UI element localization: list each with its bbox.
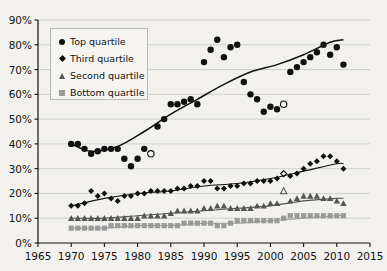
data-point: [340, 200, 346, 206]
data-point: [267, 104, 273, 110]
data-point: [194, 101, 200, 107]
data-point: [274, 106, 280, 112]
data-point: [115, 198, 121, 204]
data-point: [108, 146, 114, 152]
data-point: [174, 208, 180, 214]
legend-label: Third quartile: [70, 53, 134, 64]
y-axis-label: 20%: [0, 187, 32, 199]
data-point: [300, 59, 306, 65]
data-point: [181, 221, 186, 226]
data-point: [307, 161, 313, 167]
legend-item-top-quartile: Top quartile: [56, 33, 147, 50]
data-point: [287, 69, 293, 75]
data-point: [181, 208, 187, 214]
legend-item-bottom-quartile: Bottom quartile: [56, 84, 147, 101]
legend-label: Top quartile: [70, 36, 126, 47]
y-axis-label: 30%: [0, 163, 32, 175]
y-axis-label: 0%: [0, 237, 32, 249]
data-point: [128, 223, 133, 228]
data-point: [294, 195, 300, 201]
data-point: [81, 146, 87, 152]
y-axis-label: 10%: [0, 212, 32, 224]
data-point: [89, 226, 94, 231]
data-point: [268, 218, 273, 223]
y-axis-label: 60%: [0, 88, 32, 100]
legend-label: Bottom quartile: [70, 87, 145, 98]
y-axis-label: 50%: [0, 113, 32, 125]
data-point: [188, 208, 194, 214]
data-point: [101, 190, 107, 196]
data-point: [281, 216, 286, 221]
data-point: [320, 42, 326, 48]
data-point: [301, 213, 306, 218]
data-point: [254, 96, 260, 102]
x-axis-label: 2015: [353, 250, 387, 262]
legend-label: Second quartile: [70, 70, 145, 81]
data-point: [261, 203, 267, 209]
data-point: [227, 44, 233, 50]
data-point: [334, 44, 340, 50]
data-point: [175, 223, 180, 228]
data-point: [68, 203, 74, 209]
data-point: [88, 151, 94, 157]
data-point: [148, 213, 154, 219]
data-point: [294, 64, 300, 70]
data-point: [314, 49, 320, 55]
data-point: [334, 213, 339, 218]
data-point: [135, 190, 141, 196]
x-axis-label: 2010: [320, 250, 354, 262]
data-point: [255, 218, 260, 223]
data-point: [241, 181, 247, 187]
data-point: [280, 188, 286, 194]
data-point: [248, 218, 253, 223]
data-point: [68, 141, 74, 147]
data-point: [261, 218, 266, 223]
triangle-icon: [56, 73, 68, 79]
data-point: [154, 213, 160, 219]
x-axis-label: 1990: [187, 250, 221, 262]
diamond-icon: [56, 56, 68, 61]
square-icon: [56, 90, 68, 96]
y-axis-label: 90%: [0, 14, 32, 26]
data-point: [241, 79, 247, 85]
data-point: [327, 51, 333, 57]
data-point: [201, 178, 207, 184]
data-point: [208, 178, 214, 184]
data-point: [75, 226, 80, 231]
data-point: [168, 101, 174, 107]
x-axis-label: 1970: [54, 250, 88, 262]
data-point: [234, 42, 240, 48]
data-point: [327, 153, 333, 159]
data-point: [261, 108, 267, 114]
data-point: [194, 208, 200, 214]
data-point: [288, 213, 293, 218]
data-point: [294, 171, 300, 177]
x-axis-label: 1985: [154, 250, 188, 262]
data-point: [168, 223, 173, 228]
data-point: [267, 200, 273, 206]
data-point: [122, 223, 127, 228]
data-point: [121, 156, 127, 162]
data-point: [161, 116, 167, 122]
data-point: [201, 205, 207, 211]
data-point: [215, 223, 220, 228]
data-point: [162, 223, 167, 228]
data-point: [69, 226, 74, 231]
data-point: [328, 213, 333, 218]
data-point: [274, 218, 279, 223]
data-point: [148, 151, 154, 157]
data-point: [101, 146, 107, 152]
data-point: [181, 99, 187, 105]
data-point: [214, 185, 220, 191]
data-point: [128, 163, 134, 169]
data-point: [321, 153, 327, 159]
y-axis-label: 70%: [0, 64, 32, 76]
data-point: [228, 221, 233, 226]
data-point: [141, 146, 147, 152]
data-point: [314, 158, 320, 164]
data-point: [114, 146, 120, 152]
data-point: [321, 213, 326, 218]
data-point: [174, 101, 180, 107]
y-axis-label: 40%: [0, 138, 32, 150]
